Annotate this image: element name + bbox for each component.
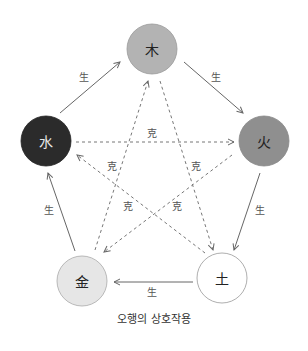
node-wood: 木 <box>127 24 177 74</box>
edge-wood-to-earth <box>160 81 213 250</box>
label-fire-earth: 生 <box>255 204 265 216</box>
edge-wood-to-fire <box>184 62 243 113</box>
overcoming-cycle <box>76 81 234 253</box>
node-water-label: 水 <box>39 134 53 150</box>
label-wood-earth: 克 <box>191 161 201 172</box>
node-wood-label: 木 <box>145 42 159 58</box>
node-fire: 火 <box>239 116 289 166</box>
edge-water-to-wood <box>60 62 120 113</box>
label-earth-metal: 生 <box>147 286 157 298</box>
label-wood-fire: 生 <box>211 71 221 83</box>
label-water-fire: 克 <box>147 128 157 139</box>
label-metal-water: 生 <box>44 204 54 216</box>
node-metal-label: 金 <box>75 274 89 290</box>
label-water-wood: 生 <box>79 71 89 83</box>
caption: 오행의 상호작용 <box>117 313 191 326</box>
edge-earth-to-water <box>77 155 205 253</box>
label-fire-metal: 克 <box>172 201 182 212</box>
five-elements-diagram: 木 水 火 金 土 生 生 生 生 生 克 克 克 克 克 오행의 상호작용 <box>0 0 308 351</box>
node-earth-label: 土 <box>215 271 229 287</box>
node-metal: 金 <box>57 256 107 306</box>
node-fire-label: 火 <box>257 134 271 150</box>
overcome-labels: 克 克 克 克 克 <box>107 128 201 212</box>
node-water: 水 <box>21 116 71 166</box>
node-earth: 土 <box>197 253 247 303</box>
label-metal-wood: 克 <box>107 161 117 172</box>
label-earth-water: 克 <box>123 201 133 212</box>
generating-cycle <box>48 62 260 282</box>
